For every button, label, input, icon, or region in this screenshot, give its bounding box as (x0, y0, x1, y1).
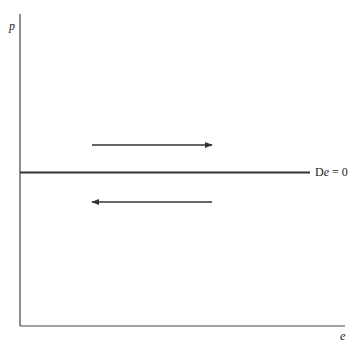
label-prefix: D (315, 165, 324, 179)
phase-diagram (0, 0, 357, 341)
label-suffix: = 0 (329, 165, 348, 179)
x-axis-label: e (340, 330, 345, 341)
y-axis-label: p (9, 20, 15, 32)
equilibrium-line-label: De = 0 (315, 166, 348, 178)
